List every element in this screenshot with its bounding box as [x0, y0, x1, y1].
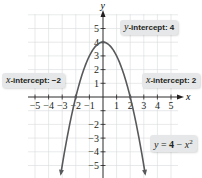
- svg-text:−1: −1: [84, 100, 95, 111]
- svg-text:3: 3: [94, 50, 99, 61]
- x-axis-label: x: [185, 91, 191, 102]
- svg-text:1: 1: [114, 100, 119, 111]
- y-axis-label: y: [100, 0, 106, 11]
- x-intercept-right-callout: x-intercept: 2: [142, 73, 200, 88]
- y-intercept-callout: y-intercept: 4: [120, 20, 178, 35]
- svg-text:1: 1: [94, 78, 99, 89]
- x-intercept-right-text: -intercept: 2: [150, 76, 196, 85]
- x-intercept-left-text: -intercept: −2: [10, 76, 60, 85]
- svg-text:5: 5: [94, 23, 99, 34]
- svg-text:3: 3: [141, 100, 146, 111]
- axes: [28, 10, 184, 178]
- svg-text:−3: −3: [88, 133, 99, 144]
- svg-text:4: 4: [155, 100, 160, 111]
- svg-text:−3: −3: [57, 100, 68, 111]
- equation-eq: =: [158, 139, 169, 150]
- equation-exponent: 2: [189, 138, 193, 146]
- svg-text:5: 5: [169, 100, 174, 111]
- svg-text:2: 2: [94, 64, 99, 75]
- svg-text:−4: −4: [88, 146, 99, 157]
- x-intercept-left-callout: x-intercept: −2: [2, 73, 65, 88]
- svg-text:−5: −5: [30, 100, 41, 111]
- equation-minus: −: [174, 139, 185, 150]
- svg-text:−4: −4: [43, 100, 54, 111]
- equation-callout: y = 4 − x2: [150, 135, 197, 152]
- y-intercept-text: -intercept: 4: [128, 23, 174, 32]
- svg-text:−2: −2: [88, 119, 99, 130]
- svg-text:−5: −5: [88, 160, 99, 171]
